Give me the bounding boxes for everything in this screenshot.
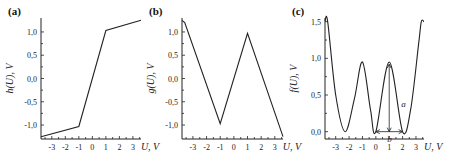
x-tick-label: 2 [401,143,405,152]
y-tick-label: -0,5 [24,98,37,107]
y-tick-label: 0,5 [311,91,321,100]
x-tick-label: 3 [414,143,418,152]
x-tick-label: -1 [76,143,83,152]
x-tick-label: -3 [48,143,55,152]
y-tick-label: -0,5 [165,98,178,107]
x-tick-label: 1 [104,143,108,152]
data-series-line [325,16,424,134]
y-tick-label: 0,5 [168,51,178,60]
x-tick-label: -1 [217,143,224,152]
y-tick-label: 1,0 [27,28,37,37]
x-tick-label: -3 [332,143,339,152]
x-tick-label: 1 [387,143,391,152]
y-axis-label: g(U), V [145,62,157,94]
x-tick-label: 1 [246,143,250,152]
annotation-a: a [401,99,406,109]
chart-panel-a: -3-2-10123U, V-1,0-0,50,00,51,0h(U), V(a… [4,5,161,152]
y-tick-label: 0,5 [27,51,37,60]
data-series-line [41,20,141,136]
y-tick-label: -1,0 [165,121,178,130]
y-tick-label: 0,0 [311,128,321,137]
y-tick-label: 0,0 [168,75,178,84]
x-tick-label: 0 [232,143,236,152]
panel-label: (a) [8,5,21,18]
x-axis-label: U, V [141,141,161,152]
y-tick-label: -1,0 [24,121,37,130]
x-tick-label: -1 [359,143,366,152]
chart-panel-c: -3-2-10123U, V0,00,51,01,5f(U), V(c)ab [288,5,444,152]
annotation-b: b [387,134,392,144]
y-tick-label: 0,0 [27,75,37,84]
x-tick-label: -2 [203,143,210,152]
figure: -3-2-10123U, V-1,0-0,50,00,51,0h(U), V(a… [0,0,450,161]
chart-panel-b: -3-2-10123U, V-1,0-0,50,00,51,0g(U), V(b… [145,5,303,152]
x-axis-label: U, V [283,141,303,152]
x-tick-label: 3 [273,143,277,152]
y-tick-label: 1,0 [168,28,178,37]
panel-label: (c) [292,5,305,18]
x-tick-label: 0 [374,143,378,152]
x-tick-label: -2 [62,143,69,152]
x-tick-label: -3 [190,143,197,152]
y-axis-label: f(U), V [288,63,300,93]
x-tick-label: 0 [90,143,94,152]
x-tick-label: -2 [346,143,353,152]
y-tick-label: 1,0 [311,54,321,63]
x-tick-label: 2 [259,143,263,152]
panel-label: (b) [149,5,163,18]
x-tick-label: 2 [117,143,121,152]
data-series-line [182,20,283,136]
x-tick-label: 3 [131,143,135,152]
y-tick-label: 1,5 [311,18,321,27]
y-axis-label: h(U), V [4,62,16,94]
x-axis-label: U, V [424,141,444,152]
